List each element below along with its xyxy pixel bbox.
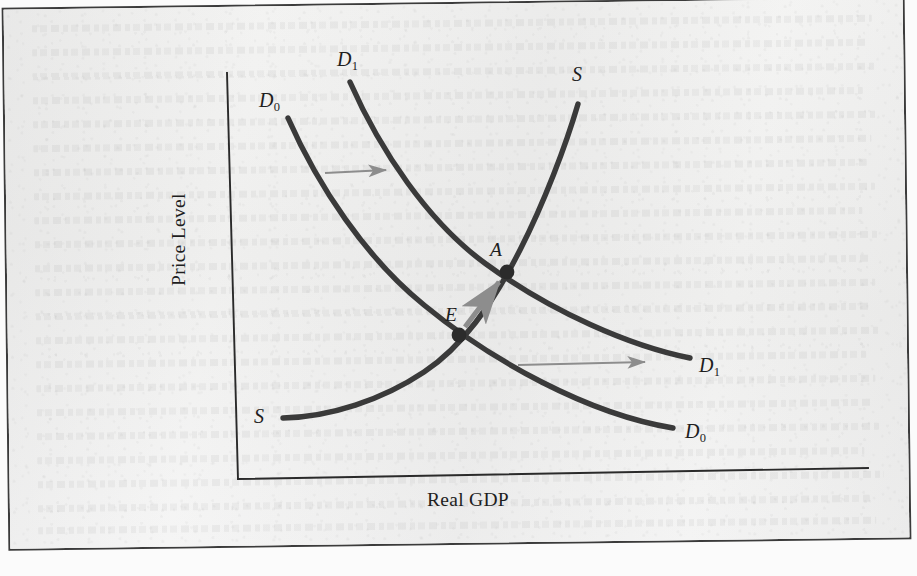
figure-border-box [2,0,912,551]
figure-page: Real GDP Price Level D0 D1 D1 D0 S S E A [0,0,917,576]
demand-d0-top-letter: D [259,89,273,111]
y-axis-label: Price Level [168,193,190,286]
bleed-through-text-layer [4,0,910,549]
demand-d0-top-subscript: 0 [274,100,280,114]
point-a-label: A [490,239,502,261]
demand-d0-end-letter: D [685,420,699,442]
demand-d0-top-label: D0 [259,89,280,112]
demand-d0-end-label: D0 [685,420,706,443]
demand-d1-end-letter: D [699,354,713,376]
supply-bottom-label: S [254,405,264,428]
point-e-label: E [445,304,457,326]
demand-d1-end-subscript: 1 [714,365,720,379]
x-axis-label: Real GDP [427,489,509,511]
demand-d1-top-subscript: 1 [352,59,358,73]
demand-d1-top-letter: D [337,48,351,70]
paper-texture [4,0,910,549]
demand-d0-end-subscript: 0 [700,431,706,445]
demand-d1-end-label: D1 [699,354,720,377]
supply-top-label: S [572,63,582,86]
demand-d1-top-label: D1 [337,48,358,71]
